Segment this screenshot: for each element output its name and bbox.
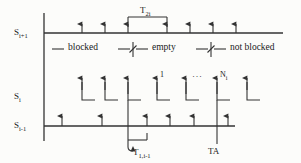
timing-diagram-figure: Si+1 Si Si-1 T2i blocked empty not block… — [0, 0, 301, 163]
marker-label-ta: TA — [208, 147, 219, 156]
middle-mark-n-sub: i — [226, 75, 228, 81]
row-label-s-i: Si — [14, 92, 21, 103]
bracket-sub-t2i: 2i — [146, 10, 151, 17]
diagram-canvas — [0, 0, 301, 163]
middle-mark-ellipsis: ··· — [192, 72, 203, 81]
bottom-row-arrows — [62, 116, 228, 126]
bracket-label-t1-i-minus-1: T1,i-1 — [133, 148, 151, 159]
bracket-label-t2i: T2i — [140, 6, 151, 17]
row-label-s-i-plus-1: Si+1 — [14, 28, 28, 39]
legend-label-not-blocked: not blocked — [230, 43, 275, 53]
bracket-sub-t1: 1,i-1 — [139, 152, 151, 159]
legend-label-empty: empty — [152, 43, 176, 53]
middle-mark-1: 1 — [160, 71, 164, 79]
row-label-s-i-minus-1: Si-1 — [14, 121, 26, 132]
bracket-t2i — [128, 17, 167, 27]
legend-label-blocked: blocked — [68, 43, 98, 53]
row-label-sub-bot: i-1 — [19, 125, 26, 132]
row-label-sub-top: i+1 — [19, 32, 28, 39]
top-row-arrows — [82, 24, 236, 33]
middle-mark-n-i: Ni — [220, 71, 227, 81]
row-label-sub-mid: i — [19, 96, 21, 103]
middle-row-steps — [82, 82, 260, 100]
